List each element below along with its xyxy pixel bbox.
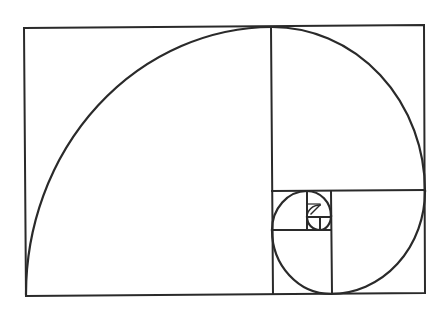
golden-spiral-svg	[0, 0, 446, 317]
subdivision-lines	[271, 27, 424, 294]
spiral-arc-3	[331, 191, 425, 294]
divider-line	[331, 191, 332, 293]
spiral-arc-8	[307, 217, 320, 230]
spiral-arc-1	[26, 27, 272, 294]
golden-spiral-diagram: Golden spiral	[0, 0, 446, 317]
divider-line	[271, 27, 273, 294]
outer-rectangle	[24, 25, 425, 296]
spiral-arc-4	[272, 230, 331, 294]
spiral-curve	[26, 27, 425, 294]
divider-line	[272, 190, 424, 191]
spiral-arc-7	[320, 216, 331, 230]
spiral-arc-5	[272, 191, 307, 230]
spiral-arc-2	[272, 27, 425, 191]
